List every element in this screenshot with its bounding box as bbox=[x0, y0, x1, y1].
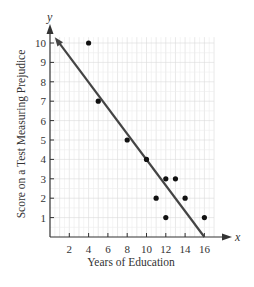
y-axis-arrow-icon bbox=[47, 24, 54, 34]
data-point bbox=[125, 137, 130, 142]
y-tick-label: 2 bbox=[41, 192, 47, 204]
x-tick-label: 4 bbox=[86, 243, 92, 255]
data-point bbox=[163, 176, 168, 181]
data-point bbox=[96, 99, 101, 104]
y-tick-label: 4 bbox=[41, 153, 47, 165]
data-point bbox=[154, 196, 159, 201]
scatter-plot: x y 246810121416 12345678910 Years of Ed… bbox=[0, 0, 254, 287]
x-tick-label: 16 bbox=[199, 243, 211, 255]
y-tick-label: 1 bbox=[41, 212, 47, 224]
y-tick-label: 9 bbox=[41, 56, 47, 68]
y-tick-label: 5 bbox=[41, 134, 47, 146]
x-tick-label: 6 bbox=[105, 243, 111, 255]
x-tick-label: 12 bbox=[160, 243, 171, 255]
x-ticks: 246810121416 bbox=[67, 233, 211, 255]
y-tick-label: 3 bbox=[41, 173, 47, 185]
grid bbox=[50, 37, 214, 237]
x-axis-variable: x bbox=[234, 230, 241, 244]
y-tick-label: 7 bbox=[41, 95, 47, 107]
x-tick-label: 10 bbox=[141, 243, 153, 255]
y-axis-title: Score on a Test Measuring Prejudice bbox=[15, 50, 28, 219]
y-tick-label: 10 bbox=[35, 37, 47, 49]
data-point bbox=[86, 40, 91, 45]
y-tick-label: 6 bbox=[41, 115, 47, 127]
data-point bbox=[173, 176, 178, 181]
axes: x y bbox=[46, 10, 241, 244]
data-point bbox=[202, 215, 207, 220]
data-point bbox=[163, 215, 168, 220]
x-tick-label: 8 bbox=[124, 243, 130, 255]
x-axis-arrow-icon bbox=[222, 234, 232, 241]
y-tick-label: 8 bbox=[41, 76, 47, 88]
x-tick-label: 14 bbox=[180, 243, 192, 255]
data-point bbox=[144, 157, 149, 162]
data-point bbox=[183, 196, 188, 201]
regression-line bbox=[55, 37, 205, 237]
y-axis-variable: y bbox=[46, 10, 53, 24]
x-axis-title: Years of Education bbox=[87, 256, 175, 268]
x-tick-label: 2 bbox=[67, 243, 73, 255]
